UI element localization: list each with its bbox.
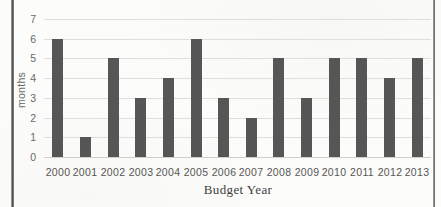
bar-2002 — [108, 58, 119, 157]
gridline — [44, 98, 431, 99]
scanned-figure: 01234567 2000200120022003200420052006200… — [0, 0, 441, 207]
bar-2004 — [163, 78, 174, 157]
gridline — [44, 58, 431, 59]
x-axis-baseline — [44, 157, 431, 158]
bar-2000 — [52, 39, 63, 157]
bar-2009 — [301, 98, 312, 157]
bar-2005 — [191, 39, 202, 157]
bar-2010 — [329, 58, 340, 157]
bar-2001 — [80, 137, 91, 157]
bar-2011 — [356, 58, 367, 157]
y-tick-label: 7 — [0, 13, 36, 25]
bar-2008 — [273, 58, 284, 157]
bar-2003 — [135, 98, 146, 157]
gridline — [44, 78, 431, 79]
gridline — [44, 19, 431, 20]
bar-chart: 01234567 2000200120022003200420052006200… — [0, 0, 441, 207]
bar-2013 — [412, 58, 423, 157]
x-axis-title: Budget Year — [204, 182, 273, 198]
bar-2006 — [218, 98, 229, 157]
y-axis-title: months — [15, 72, 27, 108]
gridline — [44, 137, 431, 138]
y-tick-label: 1 — [0, 131, 36, 143]
bar-2007 — [246, 118, 257, 157]
y-tick-label: 0 — [0, 151, 36, 163]
x-tick-label: 2013 — [399, 166, 435, 178]
bar-2012 — [384, 78, 395, 157]
y-tick-label: 2 — [0, 112, 36, 124]
gridline — [44, 118, 431, 119]
y-tick-label: 6 — [0, 33, 36, 45]
gridline — [44, 39, 431, 40]
y-tick-label: 5 — [0, 52, 36, 64]
